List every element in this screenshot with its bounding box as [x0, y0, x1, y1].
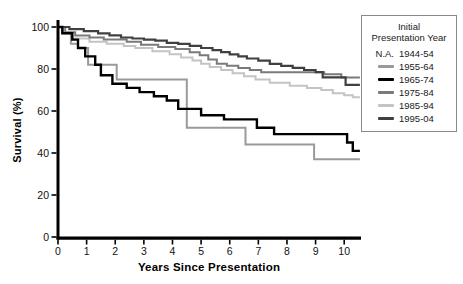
axes	[57, 20, 362, 240]
x-tick-label: 7	[255, 245, 261, 257]
x-tick-label: 0	[55, 245, 61, 257]
survival-curve-1955-64	[58, 27, 360, 159]
x-tick-label: 4	[170, 245, 176, 257]
y-tick-label: 60	[37, 105, 49, 117]
legend-entry-1965-74: 1965-74	[366, 73, 452, 86]
y-tick-label: 0	[43, 231, 49, 243]
legend-line-swatch	[378, 91, 394, 94]
legend-entry-label: 1975-84	[399, 87, 434, 98]
legend-entry-1955-64: 1955-64	[366, 60, 452, 73]
legend-entry-1985-94: 1985-94	[366, 99, 452, 112]
x-tick-label: 10	[338, 245, 350, 257]
x-tick-label: 6	[227, 245, 233, 257]
survival-figure: 020406080100012345678910 Survival (%) Ye…	[0, 0, 463, 284]
x-tick-label: 3	[141, 245, 147, 257]
y-tick-label: 20	[37, 189, 49, 201]
y-tick-label: 100	[31, 21, 49, 33]
legend-line-swatch	[378, 117, 394, 120]
legend-entry-label: 1965-74	[399, 74, 434, 85]
axis-ticks: 020406080100012345678910	[31, 21, 350, 258]
legend-entry-label: 1995-04	[399, 113, 434, 124]
survival-curves	[58, 27, 360, 159]
legend-line-swatch	[378, 65, 394, 68]
legend-entry-1975-84: 1975-84	[366, 86, 452, 99]
legend-title: Initial Presentation Year	[366, 21, 452, 43]
legend-entry-1944-54: N.A.1944-54	[366, 47, 452, 60]
y-tick-label: 80	[37, 63, 49, 75]
legend-swatch-col: N.A.	[366, 48, 399, 59]
legend-entry-label: 1985-94	[399, 100, 434, 111]
legend-title-line1: Initial	[398, 21, 420, 32]
y-axis-label: Survival (%)	[11, 75, 23, 185]
x-tick-label: 5	[198, 245, 204, 257]
legend-entry-label: 1944-54	[399, 48, 434, 59]
legend: Initial Presentation Year N.A.1944-54195…	[361, 15, 457, 132]
legend-title-line2: Presentation Year	[371, 32, 446, 43]
legend-line-swatch	[378, 104, 394, 107]
legend-entry-label: 1955-64	[399, 61, 434, 72]
x-tick-label: 2	[112, 245, 118, 257]
survival-curve-1965-74	[58, 27, 360, 151]
x-tick-label: 8	[284, 245, 290, 257]
legend-line-swatch	[378, 78, 394, 81]
legend-entries: N.A.1944-541955-641965-741975-841985-941…	[366, 47, 452, 125]
legend-na-text: N.A.	[376, 48, 394, 59]
legend-swatch-col	[366, 78, 399, 81]
legend-entry-1995-04: 1995-04	[366, 112, 452, 125]
legend-swatch-col	[366, 117, 399, 120]
legend-swatch-col	[366, 91, 399, 94]
x-tick-label: 9	[313, 245, 319, 257]
y-tick-label: 40	[37, 147, 49, 159]
legend-swatch-col	[366, 104, 399, 107]
legend-swatch-col	[366, 65, 399, 68]
x-tick-label: 1	[84, 245, 90, 257]
x-axis-label: Years Since Presentation	[58, 261, 360, 273]
